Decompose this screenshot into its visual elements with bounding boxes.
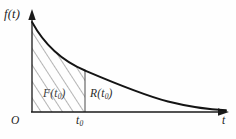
x-axis-tick-label-t0: t0 [76,115,83,127]
y-axis-label-arg: (t) [8,7,20,21]
region-label-R: R(t0) [90,88,113,100]
region-label-F-open: (t [50,87,57,99]
region-label-F-close: ) [61,87,65,99]
region-label-R-close: ) [108,87,112,99]
origin-label: O [11,115,20,127]
region-label-R-open: (t [97,87,104,99]
y-axis-label: f(t) [4,8,20,21]
region-label-F: F(t0) [43,88,66,100]
tick-label-sub: 0 [79,119,83,128]
x-axis-label: t [222,115,225,127]
figure-container: f(t) F(t0) R(t0) O t0 t [0,0,236,139]
plot-svg [0,0,236,139]
